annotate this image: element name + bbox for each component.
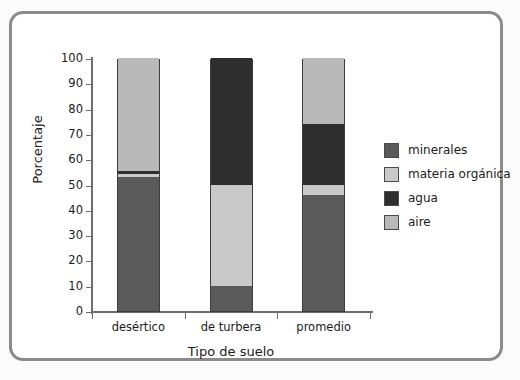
legend-label: minerales <box>408 143 467 157</box>
y-axis-title: Porcentaje <box>30 115 45 183</box>
legend-item[interactable]: aire <box>384 210 504 234</box>
stacked-bar[interactable] <box>117 59 160 312</box>
y-tick-label: 10 <box>68 279 83 294</box>
legend-item[interactable]: materia orgánica <box>384 162 504 186</box>
legend-label: agua <box>408 191 438 205</box>
plot-area: 0102030405060708090100 <box>92 59 370 312</box>
legend-item[interactable]: minerales <box>384 138 504 162</box>
legend-label: materia orgánica <box>408 167 511 181</box>
legend-swatch-icon <box>384 167 399 182</box>
x-tick-mark <box>370 313 371 319</box>
y-tick-mark <box>86 59 92 60</box>
y-tick-mark <box>86 236 92 237</box>
y-tick-mark <box>86 84 92 85</box>
y-tick-label: 0 <box>76 304 83 319</box>
figure-frame: 0102030405060708090100 desérticode turbe… <box>9 11 503 361</box>
bar-segment-materia-orgánica[interactable] <box>303 185 344 195</box>
y-tick-mark <box>86 261 92 262</box>
legend-swatch-icon <box>384 191 399 206</box>
x-tick-label: de turbera <box>185 320 278 334</box>
y-tick-mark <box>86 135 92 136</box>
y-tick-mark <box>86 211 92 212</box>
x-tick-label: promedio <box>277 320 370 334</box>
bar-segment-aire[interactable] <box>303 58 344 124</box>
legend-item[interactable]: agua <box>384 186 504 210</box>
y-tick-label: 20 <box>68 253 83 268</box>
x-tick-mark <box>277 313 278 319</box>
y-tick-label: 100 <box>61 51 83 66</box>
chart-legend: mineralesmateria orgánicaaguaaire <box>384 138 504 234</box>
y-tick-label: 40 <box>68 203 83 218</box>
y-tick-mark <box>86 287 92 288</box>
bar-segment-aire[interactable] <box>118 58 159 171</box>
stacked-bar[interactable] <box>210 59 253 312</box>
chart-figure: 0102030405060708090100 desérticode turbe… <box>0 0 520 380</box>
y-tick-mark <box>86 160 92 161</box>
legend-label: aire <box>408 215 431 229</box>
bar-segment-materia-orgánica[interactable] <box>211 185 252 286</box>
y-tick-label: 70 <box>68 127 83 142</box>
y-tick-label: 80 <box>68 102 83 117</box>
y-tick-label: 50 <box>68 178 83 193</box>
bar-segment-agua[interactable] <box>303 124 344 185</box>
x-tick-label: desértico <box>92 320 185 334</box>
bar-segment-minerales[interactable] <box>118 177 159 311</box>
y-tick-label: 90 <box>68 76 83 91</box>
y-tick-mark <box>86 110 92 111</box>
legend-swatch-icon <box>384 143 399 158</box>
bar-segment-minerales[interactable] <box>211 286 252 311</box>
y-tick-label: 60 <box>68 152 83 167</box>
stacked-bar[interactable] <box>302 59 345 312</box>
y-tick-mark <box>86 186 92 187</box>
y-tick-label: 30 <box>68 228 83 243</box>
x-tick-mark <box>185 313 186 319</box>
x-tick-mark <box>92 313 93 319</box>
legend-swatch-icon <box>384 215 399 230</box>
bar-segment-minerales[interactable] <box>303 195 344 311</box>
x-axis-title: Tipo de suelo <box>92 344 370 359</box>
bar-segment-agua[interactable] <box>211 58 252 185</box>
